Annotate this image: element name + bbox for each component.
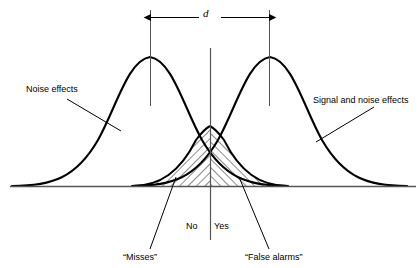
misses-label-leader: [150, 177, 176, 249]
signal-detection-figure: d Noise effects Signal and noise effects…: [0, 0, 419, 268]
false-alarms-label: “False alarms”: [245, 253, 303, 262]
misses-label: “Misses”: [123, 253, 157, 262]
response-yes-label: Yes: [214, 222, 229, 231]
noise-label-leader: [67, 99, 121, 131]
noise-effects-label: Noise effects: [26, 85, 78, 94]
false-alarms-label-leader: [239, 177, 269, 249]
signal-label-leader: [316, 107, 374, 142]
response-no-label: No: [186, 222, 198, 231]
signal-and-noise-effects-label: Signal and noise effects: [313, 96, 408, 105]
figure-canvas: [0, 0, 419, 268]
d-prime-label: d: [203, 8, 209, 19]
